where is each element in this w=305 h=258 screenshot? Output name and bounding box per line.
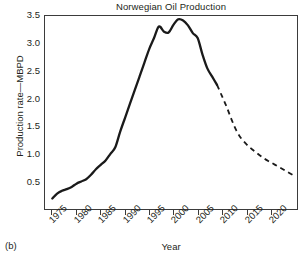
- plot-area: [44, 15, 298, 210]
- panel-label: (b): [5, 240, 17, 252]
- figure-panel: Norwegian Oil Production Production rate…: [0, 0, 305, 258]
- projected-production-line: [217, 85, 295, 176]
- x-axis-title: Year: [44, 241, 298, 253]
- production-curve-svg: [45, 16, 297, 209]
- historical-production-line: [52, 19, 217, 198]
- chart-title: Norwegian Oil Production: [44, 0, 298, 14]
